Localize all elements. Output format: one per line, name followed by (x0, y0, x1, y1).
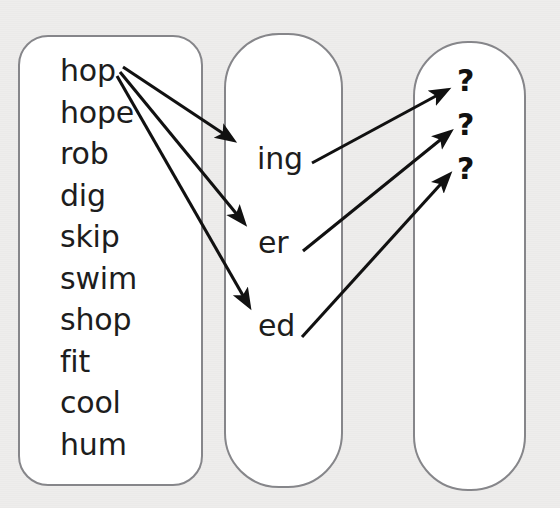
result-question-mark-1: ? (457, 63, 474, 98)
stem-word: hum (60, 424, 205, 466)
stem-word: shop (60, 299, 205, 341)
stem-word: hop (60, 50, 205, 92)
stem-word: rob (60, 133, 205, 175)
stem-word: swim (60, 258, 205, 300)
stem-word: dig (60, 175, 205, 217)
stem-word: cool (60, 382, 205, 424)
suffixes-container (224, 33, 343, 488)
result-question-mark-3: ? (457, 151, 474, 186)
stem-word: hope (60, 92, 205, 134)
stem-word: fit (60, 341, 205, 383)
stem-word: skip (60, 216, 205, 258)
suffix-ing: ing (257, 141, 303, 176)
stems-word-list: hop hope rob dig skip swim shop fit cool… (60, 50, 205, 465)
diagram-canvas: hop hope rob dig skip swim shop fit cool… (0, 0, 560, 508)
result-question-mark-2: ? (457, 107, 474, 142)
suffix-ed: ed (258, 308, 295, 343)
suffix-er: er (258, 225, 288, 260)
